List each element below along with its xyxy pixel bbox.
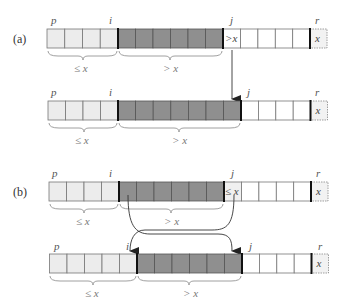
brace-gt [138,276,241,285]
brace-gt-label: > x [164,215,179,227]
current-cell-label: ≤ x [225,185,239,197]
brace-gt-label: > x [183,287,198,299]
unknown-region [242,254,312,273]
index-p: p [51,167,58,179]
pivot-label: x [315,104,321,116]
le-region [47,29,118,48]
brace-le-label: ≤ x [85,287,99,299]
index-r: r [316,167,321,179]
brace-gt-label: > x [163,62,178,74]
brace-le-label: ≤ x [75,134,89,146]
unknown-region [242,182,312,201]
index-r: r [315,14,320,26]
case-b-after-row: p i j r x ≤ x [50,240,329,299]
pivot-label: x [316,257,322,269]
index-j: j [247,240,252,252]
gt-region [137,254,242,273]
index-i: i [109,167,112,179]
brace-le [50,204,118,213]
case-a-after-row: p i j r x ≤ x [48,86,328,146]
gt-region [119,182,224,201]
brace-gt [119,51,222,60]
index-p: p [50,86,57,98]
case-b-before-row: (b) p i j r ≤ x x [13,167,328,227]
case-a-before-row: (a) p i j r >x [13,14,327,74]
index-j: j [228,14,233,26]
le-region [49,182,119,201]
index-j: j [245,86,250,98]
swap-arrow-le-to-front [130,195,234,251]
le-region [48,101,118,120]
index-r: r [315,86,320,98]
gt-region [118,29,223,48]
case-a-label: (a) [13,32,26,46]
unknown-region [241,101,311,120]
brace-le [48,51,117,60]
index-p: p [53,240,60,252]
brace-le-label: ≤ x [74,62,88,74]
index-r: r [318,240,323,252]
gt-region [118,101,241,120]
pivot-label: x [314,32,320,44]
index-i: i [109,14,112,26]
le-region [50,254,138,273]
unknown-region [241,29,311,48]
case-b-label: (b) [13,185,27,199]
brace-gt [119,123,240,132]
brace-le-label: ≤ x [76,215,90,227]
index-i: i [126,240,129,252]
partition-diagram: (a) p i j r >x [0,0,342,306]
index-i: i [109,86,112,98]
swap-arrow-gt-to-end [128,195,232,251]
index-p: p [50,14,57,26]
brace-gt-label: > x [172,134,187,146]
index-j: j [229,167,234,179]
brace-le [49,123,117,132]
brace-gt [120,204,223,213]
current-cell-label: >x [225,32,237,44]
pivot-label: x [315,185,321,197]
brace-le [50,276,136,285]
